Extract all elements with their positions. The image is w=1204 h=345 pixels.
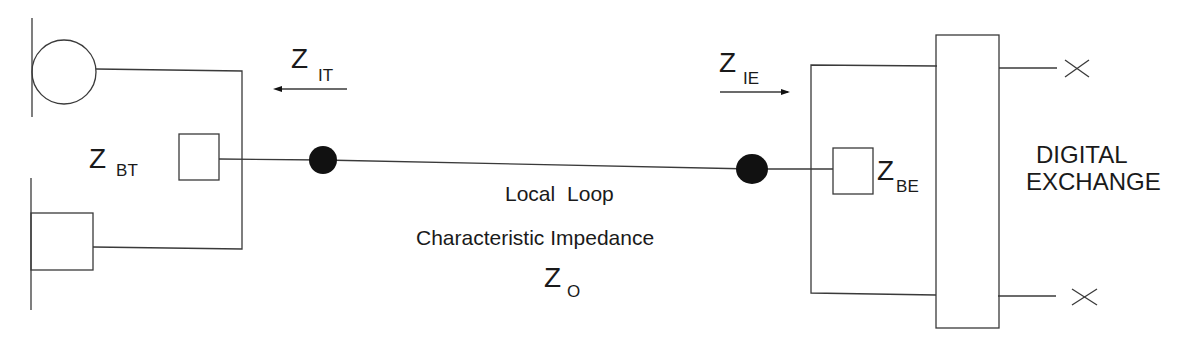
x-termination-bottom-icon xyxy=(1072,289,1097,305)
z-be-label: ZBE xyxy=(877,157,919,185)
terminal-stub-wire xyxy=(219,159,323,160)
mouthpiece-box xyxy=(31,213,93,270)
z-o-label: ZO xyxy=(544,264,580,292)
earpiece-circle xyxy=(32,40,96,104)
z-be-main: Z xyxy=(877,155,894,186)
diagram-canvas xyxy=(0,0,1204,345)
z-o-main: Z xyxy=(544,262,561,293)
z-be-box xyxy=(833,148,873,194)
z-bt-label: ZBT xyxy=(89,145,138,173)
exchange-junction-dot xyxy=(736,154,768,184)
exchange-interface-box xyxy=(936,35,999,328)
exchange-label-line1: DIGITAL xyxy=(1036,143,1128,167)
z-it-label: ZIT xyxy=(291,45,333,73)
z-ie-label: ZIE xyxy=(719,49,759,77)
local-loop-wire xyxy=(323,160,752,169)
characteristic-impedance-label: Characteristic Impedance xyxy=(416,227,654,248)
z-ie-main: Z xyxy=(719,47,736,78)
z-it-main: Z xyxy=(291,43,308,74)
z-bt-subscript: BT xyxy=(116,161,138,180)
x-termination-top-icon xyxy=(1065,60,1089,77)
z-ie-subscript: IE xyxy=(743,69,759,88)
z-bt-box xyxy=(179,134,219,180)
local-loop-label: Local Loop xyxy=(505,183,614,204)
z-it-subscript: IT xyxy=(318,66,333,85)
exchange-label-line2: EXCHANGE xyxy=(1026,170,1161,194)
z-ie-arrowhead-icon xyxy=(781,89,790,95)
z-o-subscript: O xyxy=(567,282,580,301)
z-bt-main: Z xyxy=(89,143,106,174)
z-be-subscript: BE xyxy=(896,177,919,196)
terminal-junction-dot xyxy=(309,146,337,174)
z-it-arrowhead-icon xyxy=(273,86,282,92)
